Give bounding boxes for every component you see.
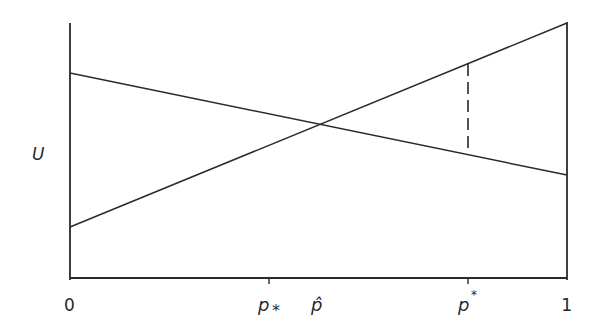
tick-label-p-hat: p̂ (310, 294, 322, 315)
tick-label-p-star-sup: * (471, 288, 477, 302)
tick-label-one: 1 (561, 294, 572, 315)
decreasing-utility-line (70, 73, 567, 175)
tick-label-p-star: p (457, 294, 469, 315)
tick-label-p-lower-sub: * (272, 301, 280, 320)
utility-diagram: U 0 p * p̂ p * 1 (0, 0, 598, 328)
tick-label-zero: 0 (64, 295, 75, 315)
increasing-utility-line (70, 23, 567, 227)
tick-label-p-lower: p (257, 294, 269, 315)
y-axis-label: U (32, 144, 45, 164)
